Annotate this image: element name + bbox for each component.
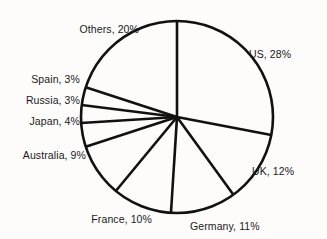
pie-slice-divider-germany bbox=[177, 117, 233, 195]
pie-slice-divider-others bbox=[86, 87, 177, 117]
slice-label-uk: UK, 12% bbox=[252, 165, 294, 177]
slice-label-spain: Spain, 3% bbox=[31, 73, 80, 85]
pie-slice-divider-uk bbox=[177, 117, 271, 135]
slice-label-russia: Russia, 3% bbox=[26, 94, 80, 106]
slice-label-others: Others, 20% bbox=[80, 23, 139, 35]
pie-slice-divider-spain bbox=[82, 105, 177, 117]
slice-label-japan: Japan, 4% bbox=[29, 115, 80, 127]
pie-chart: Others, 20% US, 28% UK, 12% Germany, 11%… bbox=[0, 0, 327, 239]
slice-label-germany: Germany, 11% bbox=[190, 220, 260, 232]
slice-label-france: France, 10% bbox=[91, 213, 152, 225]
pie-slice-divider-france bbox=[171, 117, 177, 213]
slice-label-australia: Australia, 9% bbox=[23, 149, 86, 161]
pie-chart-canvas: Others, 20% US, 28% UK, 12% Germany, 11%… bbox=[0, 0, 327, 239]
slice-label-us: US, 28% bbox=[249, 48, 291, 60]
